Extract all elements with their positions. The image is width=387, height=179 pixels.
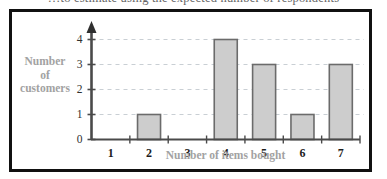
bar [291,115,314,140]
bar [253,65,276,140]
cropped-header-text: …to estimate using the expected number o… [0,0,387,5]
y-axis-arrow-icon [87,21,97,33]
bar-chart-canvas [12,12,369,169]
y-tick-label: 0 [69,134,83,146]
y-tick-label: 3 [69,59,83,71]
plot-area: Number of customers 01234 1234567 Number… [12,12,369,169]
y-tick-label: 2 [69,84,83,96]
bar [138,115,161,140]
bar [329,65,352,140]
y-tick-label: 1 [69,109,83,121]
x-axis-title: Number of items bought [82,149,369,161]
bar [214,40,237,140]
figure-frame: Number of customers 01234 1234567 Number… [9,9,372,172]
y-tick-label: 4 [69,34,83,46]
